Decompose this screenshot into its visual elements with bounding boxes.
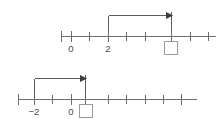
tick-label-2: 2 (105, 43, 110, 54)
jump-arrow-top (109, 12, 174, 31)
number-line-figure: 0 2 (0, 0, 223, 119)
answer-box-top[interactable] (165, 42, 178, 55)
tick-label-0: 0 (68, 106, 73, 117)
tick-label-0: 0 (68, 43, 73, 54)
jump-arrow-bottom (35, 75, 88, 94)
answer-box-bottom[interactable] (80, 105, 93, 118)
tick-label-minus-2: −2 (28, 106, 39, 117)
bottom-number-line: −2 0 (18, 75, 197, 118)
top-number-line: 0 2 (61, 12, 216, 55)
number-line-canvas: 0 2 (0, 0, 223, 119)
